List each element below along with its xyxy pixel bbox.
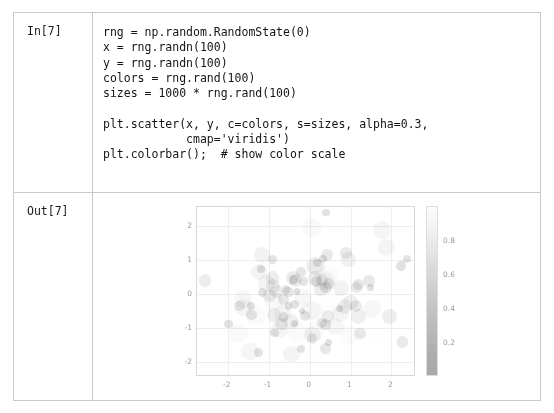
notebook-cell-table: In[7] rng = np.random.RandomState(0) x =… [13,12,541,401]
input-prompt-gutter: In[7] [14,13,93,192]
scatter-point [333,280,349,296]
input-code-area[interactable]: rng = np.random.RandomState(0) x = rng.r… [93,13,540,192]
scatter-point [354,328,365,339]
code-block[interactable]: rng = np.random.RandomState(0) x = rng.r… [103,25,540,163]
colorbar-tick-label: 0.2 [443,338,455,347]
y-tick-label: -2 [182,356,192,365]
scatter-point [397,336,409,348]
scatter-point [363,300,381,318]
scatter-point [378,239,395,256]
scatter-point [254,247,270,263]
output-figure-area: -2-1012 210-1-2 0.80.60.40.2 [93,193,540,400]
scatter-point [325,339,332,346]
colorbar-gradient [427,207,437,375]
scatter-point [302,218,321,237]
x-tick-label: 0 [306,380,311,389]
scatter-point [286,271,300,285]
scatter-point [229,324,248,343]
scatter-point [351,282,362,293]
scatter-point [351,309,366,324]
input-prompt-label: In[7] [27,25,92,39]
y-tick-label: -1 [182,322,192,331]
scatter-point [287,323,307,343]
colorbar-tick-label: 0.4 [443,304,455,313]
colorbar-tick-label: 0.8 [443,236,455,245]
scatter-point [373,221,391,239]
output-prompt-label: Out[7] [27,205,92,219]
x-tick-label: 1 [347,380,352,389]
x-tick-label: -2 [223,380,230,389]
input-cell-row: In[7] rng = np.random.RandomState(0) x =… [14,13,540,193]
output-prompt-gutter: Out[7] [14,193,93,400]
colorbar [426,206,438,376]
colorbar-tick-label: 0.6 [443,270,455,279]
scatter-point [294,289,312,307]
scatter-point [278,294,289,305]
scatter-point [382,309,396,323]
y-tick-label: 1 [182,254,192,263]
scatter-point [403,255,411,263]
x-tick-label: -1 [264,380,271,389]
scatter-point [323,278,334,289]
scatter-figure: -2-1012 210-1-2 0.80.60.40.2 [93,193,540,400]
screenshot-root: In[7] rng = np.random.RandomState(0) x =… [0,0,554,413]
y-tick-label: 2 [182,220,192,229]
scatter-point [367,284,374,291]
scatter-points [197,207,414,375]
scatter-point [283,346,300,363]
y-tick-label: 0 [182,288,192,297]
scatter-point [254,348,263,357]
scatter-point [321,249,333,261]
scatter-point [311,276,322,287]
x-tick-label: 2 [388,380,393,389]
scatter-point [322,209,330,217]
plot-axes [196,206,415,376]
scatter-point [306,257,323,274]
output-cell-row: Out[7] -2-1012 210-1-2 0.80.60.40.2 [14,193,540,400]
scatter-point [247,302,255,310]
scatter-point [199,274,211,286]
scatter-point [267,308,281,322]
